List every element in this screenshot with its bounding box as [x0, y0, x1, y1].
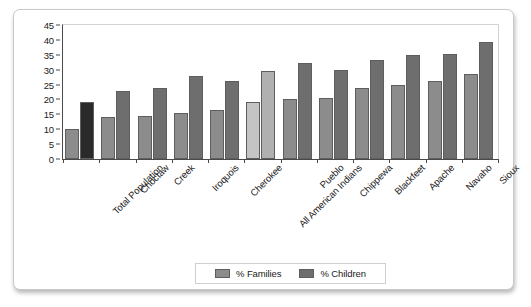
y-axis-tick-mark: [56, 84, 60, 85]
bar-families: [65, 129, 79, 159]
bar-children: [225, 81, 239, 159]
bar-families: [138, 116, 152, 159]
y-axis-tick-mark: [56, 114, 60, 115]
y-axis-tick-label: 30: [44, 64, 54, 75]
y-axis-tick-label: 15: [44, 109, 54, 120]
bar-children: [189, 76, 203, 159]
bar-families: [391, 85, 405, 159]
x-axis-category-label: Iroquois: [209, 162, 240, 193]
y-axis-tick-label: 5: [49, 139, 54, 150]
x-axis-category-label: Sioux: [497, 162, 521, 186]
y-axis-tick-mark: [56, 159, 60, 160]
legend-item: % Children: [299, 268, 365, 279]
y-axis-tick-label: 35: [44, 49, 54, 60]
legend-swatch: [215, 269, 230, 278]
x-axis-category-label: Creek: [171, 162, 196, 187]
y-axis-tick-label: 10: [44, 124, 54, 135]
bar-group: [172, 25, 208, 159]
y-axis-tick-mark: [56, 25, 60, 26]
legend-item: % Families: [215, 268, 281, 279]
legend-label: % Families: [236, 268, 281, 279]
bar-families: [101, 117, 115, 159]
bar-children: [443, 54, 457, 159]
y-axis-tick-mark: [56, 99, 60, 100]
bar-children: [479, 42, 493, 159]
bar-families: [283, 99, 297, 159]
chart-frame: 051015202530354045 Total PopulationChoct…: [13, 9, 514, 290]
y-axis: 051015202530354045: [14, 24, 60, 160]
bar-group: [426, 25, 462, 159]
y-axis-tick-mark: [56, 129, 60, 130]
bar-children: [406, 55, 420, 159]
bar-families: [319, 98, 333, 159]
bar-children: [334, 70, 348, 159]
y-axis-tick-label: 0: [49, 154, 54, 165]
legend-label: % Children: [320, 268, 365, 279]
bar-group: [389, 25, 425, 159]
bar-group: [63, 25, 99, 159]
plot-area: [62, 24, 499, 160]
legend-swatch: [299, 269, 314, 278]
bar-children: [370, 60, 384, 159]
bar-families: [355, 88, 369, 159]
y-axis-tick-mark: [56, 144, 60, 145]
x-axis-labels: Total PopulationChoctawCreekIroquoisCher…: [62, 162, 499, 242]
bar-children: [153, 88, 167, 159]
bar-children: [80, 102, 94, 159]
bar-group: [136, 25, 172, 159]
bar-group: [353, 25, 389, 159]
x-axis-category-label: Navaho: [463, 162, 494, 193]
bar-families: [210, 110, 224, 159]
bar-group: [281, 25, 317, 159]
bar-children: [116, 91, 130, 159]
x-axis-category-label: Apache: [427, 162, 457, 192]
y-axis-tick-label: 45: [44, 20, 54, 31]
x-axis-category-label: Cherokee: [248, 162, 284, 198]
y-axis-tick-mark: [56, 54, 60, 55]
bar-families: [428, 81, 442, 159]
y-axis-tick-label: 40: [44, 34, 54, 45]
bar-children: [298, 63, 312, 159]
x-axis-category-label: Blackfeet: [392, 162, 427, 197]
y-axis-tick-label: 20: [44, 94, 54, 105]
bars-layer: [63, 25, 498, 159]
y-axis-tick-label: 25: [44, 79, 54, 90]
bar-families: [464, 74, 478, 159]
bar-children: [261, 71, 275, 159]
bar-families: [246, 102, 260, 159]
y-axis-tick-mark: [56, 39, 60, 40]
bar-group: [462, 25, 498, 159]
bar-families: [174, 113, 188, 159]
bar-group: [99, 25, 135, 159]
bar-group: [244, 25, 280, 159]
bar-group: [208, 25, 244, 159]
chart-legend: % Families% Children: [195, 263, 386, 284]
y-axis-tick-mark: [56, 69, 60, 70]
bar-group: [317, 25, 353, 159]
